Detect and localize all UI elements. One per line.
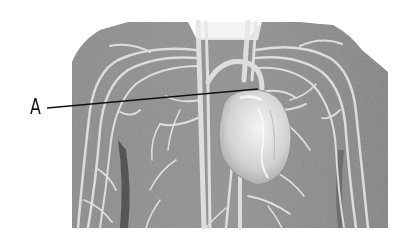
circulatory-diagram: A (0, 0, 409, 235)
torso-illustration (0, 0, 409, 235)
label-a: A (30, 96, 41, 118)
